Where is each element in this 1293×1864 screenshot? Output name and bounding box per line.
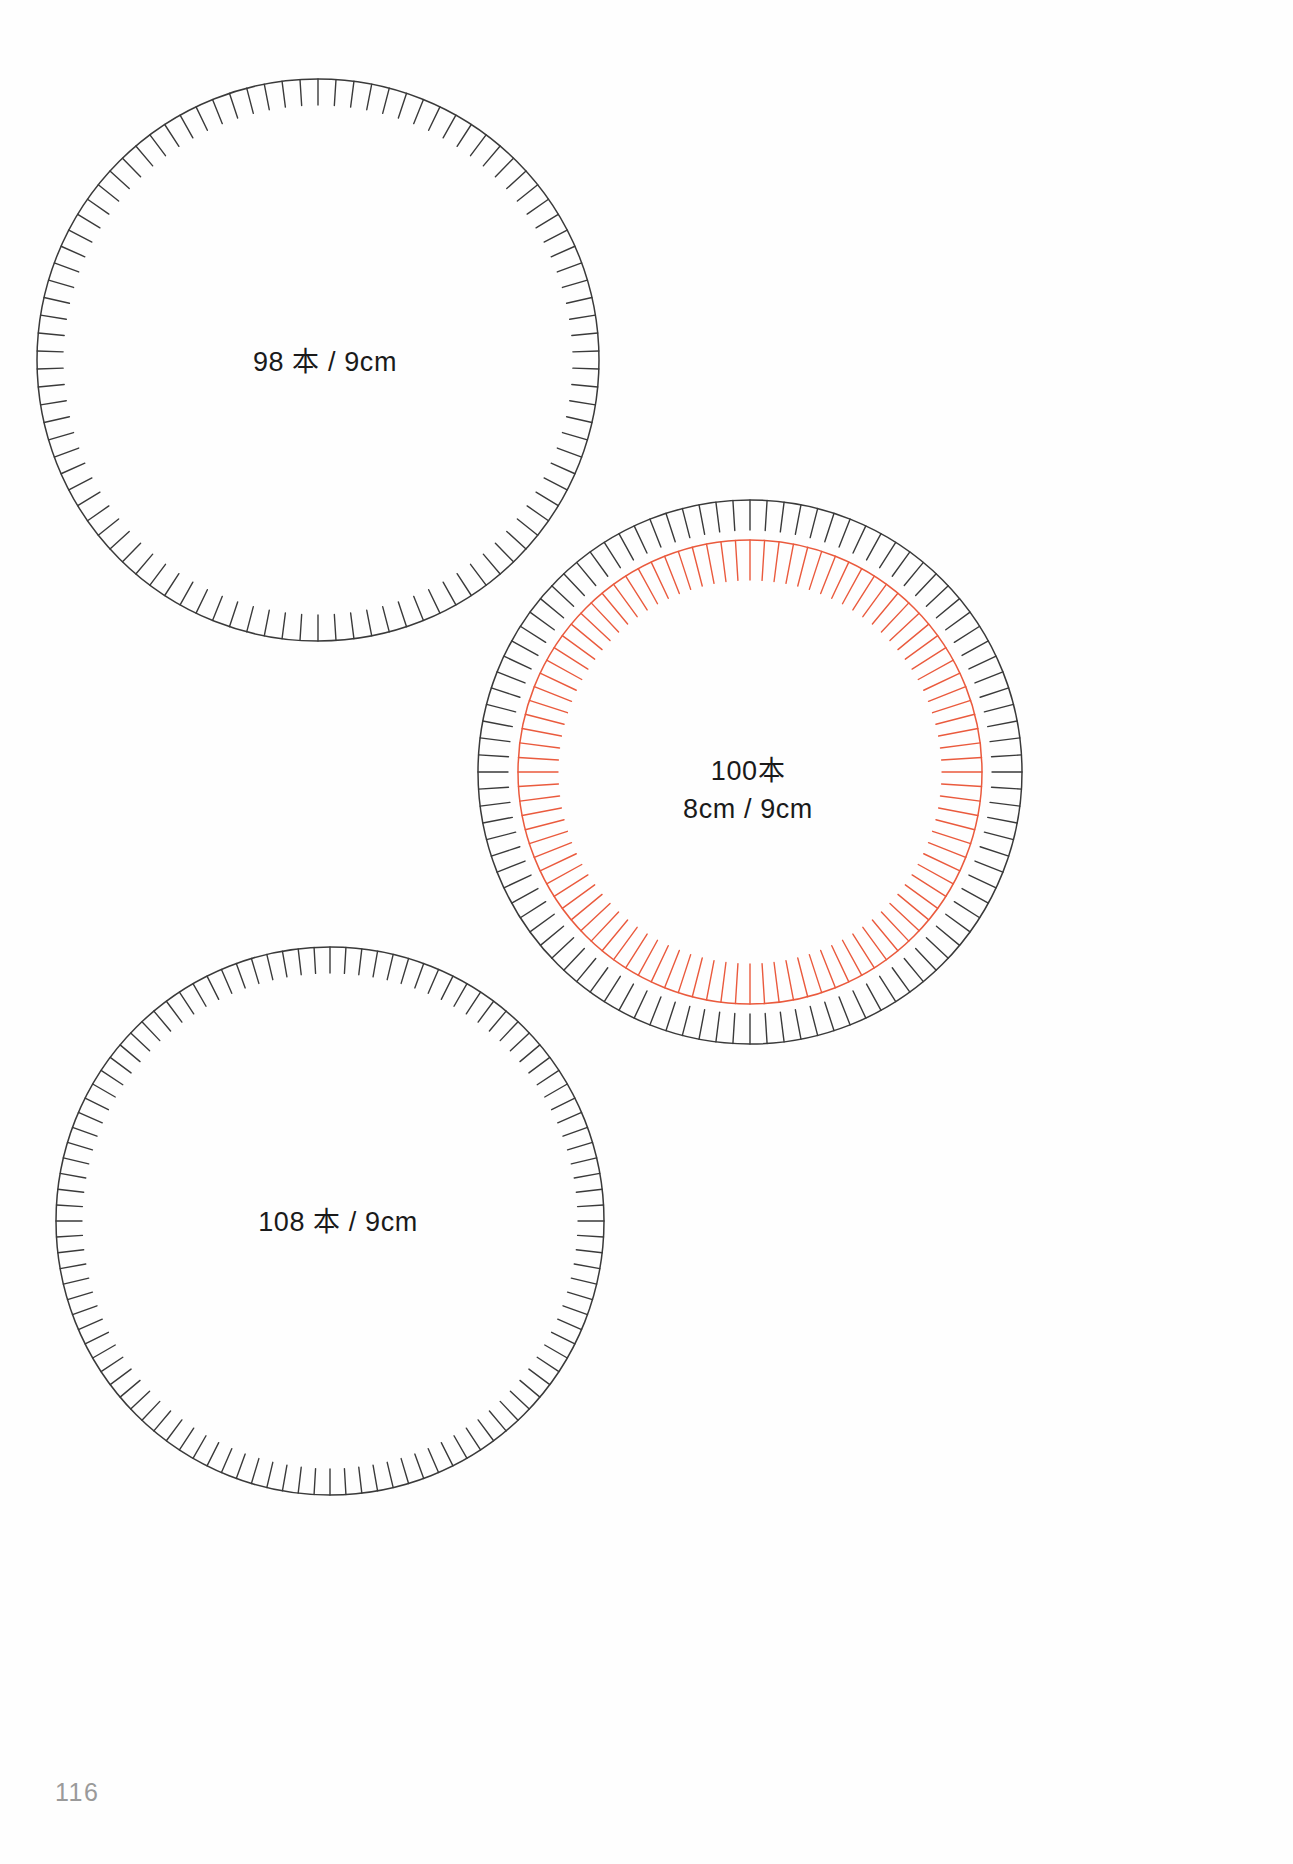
circle-100-outer-tick	[936, 599, 959, 618]
circle-98-tick	[136, 146, 153, 166]
circle-100-inner-tick	[936, 820, 975, 830]
circle-100-outer-tick	[733, 501, 735, 531]
circle-98-tick	[123, 543, 141, 562]
circle-100-outer-tick	[962, 889, 988, 903]
circle-100-inner-tick	[529, 700, 567, 712]
circle-108-tick	[154, 1411, 171, 1431]
circle-100-outer-tick	[853, 991, 866, 1018]
circle-100-inner-tick	[924, 673, 960, 690]
circle-98-tick	[196, 107, 207, 130]
circle-108-tick	[578, 1235, 604, 1237]
circle-100-inner-tick	[798, 958, 808, 997]
circle-100-outer-tick	[479, 787, 509, 789]
circle-98-tick	[570, 401, 596, 405]
circle-108-tick	[466, 1428, 480, 1450]
circle-108-tick	[68, 1142, 93, 1149]
circle-100-outer-tick	[867, 534, 881, 560]
circle-98-tick	[180, 582, 193, 605]
circle-100-outer-tick	[946, 612, 970, 630]
circle-100-outer-tick	[795, 505, 801, 534]
circle-100-outer-tick	[904, 958, 923, 981]
circle-100-outer-tick	[590, 552, 608, 576]
circle-98-tick	[54, 263, 78, 272]
circle-98-tick	[495, 543, 513, 562]
circle-100-inner-tick	[651, 946, 668, 982]
circle-98-tick	[507, 531, 526, 548]
circle-100-inner-tick	[786, 544, 793, 583]
circle-100-outer-tick	[540, 599, 563, 618]
circle-100-outer-tick	[795, 1010, 801, 1039]
circle-108-tick	[267, 954, 273, 979]
circle-98-tick	[443, 582, 456, 605]
circle-100-outer-tick	[926, 938, 948, 959]
circle-100-inner-tick	[665, 951, 680, 988]
circle-98-tick	[567, 297, 592, 303]
circle-100-outer-tick	[682, 1006, 689, 1035]
circle-108-tick	[63, 1278, 88, 1284]
circle-98-tick	[517, 519, 537, 535]
circle-98-tick	[483, 554, 500, 574]
circle-98-tick	[398, 602, 406, 627]
circle-108-tick	[93, 1084, 116, 1097]
circle-108-tick	[221, 1449, 231, 1473]
circle-100-inner-tick	[638, 940, 657, 975]
circle-108-tick	[578, 1205, 604, 1207]
circle-98-tick	[44, 297, 69, 303]
circle-98-tick	[180, 115, 193, 138]
circle-108-tick	[454, 984, 467, 1007]
circle-108-tick	[441, 1443, 453, 1466]
circle-100-inner-tick	[540, 673, 576, 690]
circle-108-tick	[166, 1001, 182, 1022]
circle-100-outer-tick	[733, 1014, 735, 1044]
circle-100-outer-tick	[590, 968, 608, 992]
circle-100-outer-tick	[487, 832, 516, 839]
circle-108-tick	[571, 1158, 596, 1164]
circle-100-inner-tick	[821, 556, 836, 593]
circle-108-tick	[193, 984, 206, 1007]
circle-98-tick	[78, 492, 100, 505]
circle-98-tick	[213, 596, 223, 620]
circle-108-tick	[78, 1112, 102, 1122]
circle-108-tick	[520, 1045, 540, 1062]
circle-108-tick	[207, 976, 219, 999]
circle-100-outer-tick	[765, 501, 767, 531]
circle-100-outer-tick	[604, 976, 620, 1001]
circle-98-tick	[457, 574, 471, 596]
circle-108-tick	[387, 954, 393, 979]
circle-100-inner-tick	[547, 660, 582, 679]
circle-108-tick	[179, 992, 193, 1014]
circle-100-outer-tick	[975, 672, 1003, 683]
circle-98-tick	[507, 171, 526, 188]
circle-108-tick	[359, 949, 362, 975]
circle-98-tick	[110, 531, 129, 548]
circle-98-tick	[517, 185, 537, 201]
circle-108-tick	[282, 951, 287, 977]
circle-100-outer-tick	[780, 502, 784, 532]
circle-100-outer-tick	[810, 1006, 817, 1035]
page-number: 116	[55, 1778, 99, 1807]
circle-108-tick	[142, 1022, 160, 1041]
circle-100-outer-tick	[716, 502, 720, 532]
circle-98-tick	[527, 199, 548, 214]
circle-108-tick	[73, 1306, 97, 1315]
circle-100-inner-tick	[522, 808, 561, 815]
circle-108-tick	[415, 1454, 424, 1478]
circle-108-tick	[520, 1380, 540, 1397]
circle-100-outer-tick	[765, 1014, 767, 1044]
circle-100-outer-tick	[988, 721, 1017, 727]
circle-100-inner-tick	[518, 757, 558, 760]
circle-100-outer-tick	[825, 1002, 834, 1031]
circle-98-tick	[443, 115, 456, 138]
circle-98-tick	[414, 100, 424, 124]
circle-100-inner-tick	[721, 542, 726, 582]
circle-98-tick	[572, 333, 598, 335]
circle-98-tick	[123, 158, 141, 177]
circle-98-tick	[229, 93, 237, 118]
circle-100-outer-tick	[946, 914, 970, 932]
circle-100-inner-tick	[924, 854, 960, 871]
circle-100-inner-tick	[832, 946, 849, 982]
circle-98-tick	[572, 384, 598, 386]
circle-100-outer-tick	[810, 509, 817, 538]
circle-108-tick	[545, 1345, 568, 1358]
circle-100-outer-tick	[716, 1012, 720, 1042]
